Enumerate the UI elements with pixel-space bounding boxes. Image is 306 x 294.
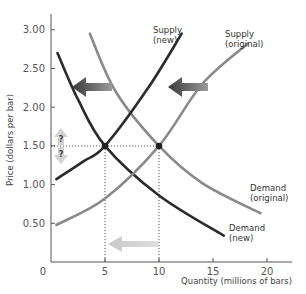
quantity-decrease-arrow <box>108 236 158 252</box>
supply-original-curve <box>56 44 247 225</box>
y-axis-title: Price (dollars per bar) <box>5 94 15 186</box>
question-mark-up: ? <box>59 135 64 144</box>
original-equilibrium-point <box>156 143 163 150</box>
x-tick-label: 0 <box>40 266 46 277</box>
demand-shift-arrow <box>72 77 112 97</box>
demand-new-label: Demand(new) <box>229 223 265 243</box>
x-tick-label: 5 <box>102 266 108 277</box>
y-tick-label: 2.00 <box>23 102 45 113</box>
y-tick-label: 1.50 <box>23 140 45 151</box>
y-tick-label: 0.50 <box>23 218 45 229</box>
question-mark-down: ? <box>59 150 64 159</box>
supply-new-curve <box>56 34 181 180</box>
new-equilibrium-point <box>102 143 109 150</box>
demand-original-label: Demand(original) <box>250 183 288 203</box>
y-tick-label: 3.00 <box>23 24 45 35</box>
supply-demand-chart: 0.501.001.502.002.503.00 05101520 Price … <box>0 0 306 294</box>
supply-shift-arrow <box>168 77 208 97</box>
x-axis-title: Quantity (millions of bars) <box>181 276 292 286</box>
y-tick-label: 1.00 <box>23 179 45 190</box>
supply-original-label: Supply(original) <box>225 29 263 49</box>
x-tick-label: 10 <box>153 266 166 277</box>
x-ticks: 05101520 <box>40 258 274 277</box>
y-ticks: 0.501.001.502.002.503.00 <box>23 24 55 229</box>
curve-labels: Supply(new) Supply(original) Demand(orig… <box>153 25 288 243</box>
y-tick-label: 2.50 <box>23 63 45 74</box>
curves <box>56 34 260 236</box>
